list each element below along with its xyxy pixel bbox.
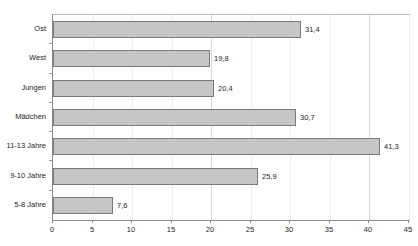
bar-value-label: 25,9: [262, 168, 277, 185]
x-axis-tick-label: 15: [167, 225, 175, 234]
bar: [53, 80, 214, 97]
x-axis-tick-label: 5: [90, 225, 94, 234]
category-label: Mädchen: [0, 112, 46, 121]
x-axis-tick: [408, 220, 409, 223]
x-axis-tick: [250, 220, 251, 223]
category-label: 9-10 Jahre: [0, 171, 46, 180]
gridline: [409, 15, 410, 220]
bar-value-label: 20,4: [218, 80, 233, 97]
x-axis-tick-label: 30: [285, 225, 293, 234]
bar: [53, 109, 296, 126]
category-label: Jungen: [0, 83, 46, 92]
x-axis-tick: [368, 220, 369, 223]
y-axis-tick: [49, 190, 52, 191]
bar-value-label: 41,3: [384, 138, 399, 155]
x-axis-tick-label: 25: [246, 225, 254, 234]
plot-area: 31,419,820,430,741,325,97,6: [52, 14, 410, 221]
x-axis-tick: [289, 220, 290, 223]
bar: [53, 138, 380, 155]
y-axis-tick: [49, 43, 52, 44]
bar-value-label: 7,6: [117, 197, 127, 214]
x-axis-tick: [210, 220, 211, 223]
x-axis-tick-label: 35: [325, 225, 333, 234]
category-label: 11-13 Jahre: [0, 141, 46, 150]
bar: [53, 197, 113, 214]
bar-series: 31,419,820,430,741,325,97,6: [53, 15, 409, 220]
bar: [53, 50, 210, 67]
x-axis-tick: [52, 220, 53, 223]
category-axis: OstWestJungenMädchen11-13 Jahre9-10 Jahr…: [0, 14, 50, 219]
x-axis-tick-label: 0: [50, 225, 54, 234]
x-axis-tick: [329, 220, 330, 223]
x-axis-tick-label: 10: [127, 225, 135, 234]
x-axis-tick: [92, 220, 93, 223]
x-axis: 051015202530354045: [52, 220, 408, 242]
bar-value-label: 30,7: [300, 109, 315, 126]
bar-value-label: 31,4: [305, 21, 320, 38]
cropped-title-remnant: [0, 0, 418, 7]
category-label: West: [0, 53, 46, 62]
bar: [53, 168, 258, 185]
category-label: Ost: [0, 24, 46, 33]
y-axis-tick: [49, 160, 52, 161]
x-axis-tick-label: 45: [404, 225, 412, 234]
y-axis-tick: [49, 73, 52, 74]
x-axis-tick: [131, 220, 132, 223]
bar-value-label: 19,8: [214, 50, 229, 67]
x-axis-tick-label: 20: [206, 225, 214, 234]
bar-chart: OstWestJungenMädchen11-13 Jahre9-10 Jahr…: [0, 0, 418, 246]
y-axis-tick: [49, 131, 52, 132]
category-label: 5-8 Jahre: [0, 200, 46, 209]
y-axis-tick: [49, 102, 52, 103]
bar: [53, 21, 301, 38]
x-axis-tick: [171, 220, 172, 223]
x-axis-tick-label: 40: [364, 225, 372, 234]
